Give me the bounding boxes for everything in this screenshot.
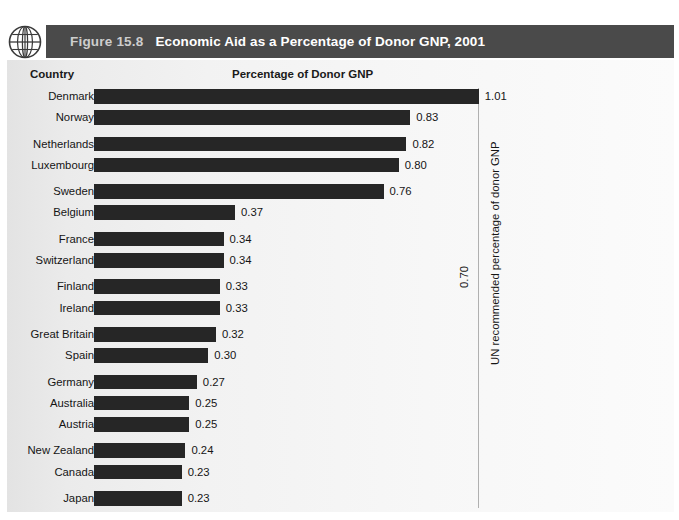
bar bbox=[94, 375, 197, 390]
bar bbox=[94, 158, 399, 173]
bar-row: Canada0.23 bbox=[7, 464, 674, 485]
chart-panel: Country Percentage of Donor GNP 0.70 UN … bbox=[7, 60, 674, 512]
bar bbox=[94, 89, 479, 104]
bar bbox=[94, 137, 406, 152]
figure-number: Figure 15.8 bbox=[70, 34, 143, 49]
bar-value-label: 0.34 bbox=[230, 254, 252, 266]
bar-value-label: 0.33 bbox=[226, 302, 248, 314]
globe-icon bbox=[7, 24, 43, 60]
figure-container: Figure 15.8 Economic Aid as a Percentage… bbox=[0, 0, 679, 520]
bar-row-label: New Zealand bbox=[7, 444, 94, 456]
bar-row: Austria0.25 bbox=[7, 416, 674, 437]
bar-row-label: Ireland bbox=[7, 302, 94, 314]
bar bbox=[94, 253, 224, 268]
bar-value-label: 0.33 bbox=[226, 280, 248, 292]
bar bbox=[94, 110, 410, 125]
column-header-percentage: Percentage of Donor GNP bbox=[232, 68, 373, 80]
bar bbox=[94, 327, 216, 342]
bar-row-label: France bbox=[7, 233, 94, 245]
bar-row-label: Great Britain bbox=[7, 328, 94, 340]
bar-value-label: 0.83 bbox=[416, 111, 438, 123]
bar-row: Netherlands0.82 bbox=[7, 136, 674, 157]
bar-row-label: Norway bbox=[7, 111, 94, 123]
bar-row-label: Germany bbox=[7, 376, 94, 388]
bar-row-label: Luxembourg bbox=[7, 159, 94, 171]
bar bbox=[94, 443, 185, 458]
bar bbox=[94, 348, 208, 363]
bar-value-label: 0.27 bbox=[203, 376, 225, 388]
bar-row: Belgium0.37 bbox=[7, 204, 674, 225]
bar-row-label: Denmark bbox=[7, 90, 94, 102]
bar-row: Germany0.27 bbox=[7, 374, 674, 395]
bar-value-label: 0.34 bbox=[230, 233, 252, 245]
bar-value-label: 0.24 bbox=[191, 444, 213, 456]
bar-value-label: 0.37 bbox=[241, 206, 263, 218]
bar bbox=[94, 301, 220, 316]
bar-row: Great Britain0.32 bbox=[7, 326, 674, 347]
bar-row: Luxembourg0.80 bbox=[7, 157, 674, 178]
bar-value-label: 0.25 bbox=[195, 397, 217, 409]
bar bbox=[94, 279, 220, 294]
bar-row-label: Austria bbox=[7, 418, 94, 430]
bar bbox=[94, 396, 189, 411]
bar-row-label: Spain bbox=[7, 349, 94, 361]
bar bbox=[94, 417, 189, 432]
bar-row-label: Belgium bbox=[7, 206, 94, 218]
bar-row-label: Netherlands bbox=[7, 138, 94, 150]
bar-row: Switzerland0.34 bbox=[7, 252, 674, 273]
bar-row-label: Sweden bbox=[7, 185, 94, 197]
bar-row: New Zealand0.24 bbox=[7, 442, 674, 463]
figure-header-band: Figure 15.8 Economic Aid as a Percentage… bbox=[46, 25, 674, 58]
figure-title: Economic Aid as a Percentage of Donor GN… bbox=[155, 34, 485, 49]
bar-value-label: 0.32 bbox=[222, 328, 244, 340]
bar-row: Greece0.19 bbox=[7, 511, 674, 512]
bar-row: Australia0.25 bbox=[7, 395, 674, 416]
bar-row: Japan0.23 bbox=[7, 490, 674, 511]
bar bbox=[94, 465, 182, 480]
bar-value-label: 0.76 bbox=[390, 185, 412, 197]
bar bbox=[94, 232, 224, 247]
bar-row-label: Finland bbox=[7, 280, 94, 292]
bar-value-label: 0.23 bbox=[188, 466, 210, 478]
bar-row-label: Australia bbox=[7, 397, 94, 409]
bar-row: Finland0.33 bbox=[7, 278, 674, 299]
bar-row-label: Japan bbox=[7, 492, 94, 504]
bar bbox=[94, 491, 182, 506]
bar-row: Ireland0.33 bbox=[7, 300, 674, 321]
bar-row: France0.34 bbox=[7, 231, 674, 252]
bar-value-label: 0.82 bbox=[412, 138, 434, 150]
bar-value-label: 0.30 bbox=[214, 349, 236, 361]
bar-row: Norway0.83 bbox=[7, 109, 674, 130]
bar-row: Sweden0.76 bbox=[7, 183, 674, 204]
bar bbox=[94, 184, 384, 199]
bar-row-label: Canada bbox=[7, 466, 94, 478]
bar-row-label: Switzerland bbox=[7, 254, 94, 266]
bar-value-label: 1.01 bbox=[485, 90, 507, 102]
column-header-country: Country bbox=[30, 68, 74, 80]
bar-value-label: 0.23 bbox=[188, 492, 210, 504]
bar-row: Denmark1.01 bbox=[7, 88, 674, 109]
bar bbox=[94, 205, 235, 220]
bar-row: Spain0.30 bbox=[7, 347, 674, 368]
bar-value-label: 0.25 bbox=[195, 418, 217, 430]
bar-value-label: 0.80 bbox=[405, 159, 427, 171]
